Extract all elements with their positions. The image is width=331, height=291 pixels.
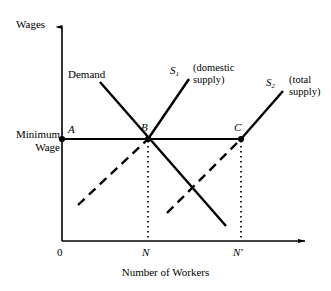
x-tick-label-n: N (142, 246, 149, 259)
total-supply-curve-label: S2 (266, 76, 275, 89)
origin-label: 0 (57, 246, 63, 259)
domestic-supply-curve-label: S1 (170, 64, 179, 77)
domestic-supply-curve-dashed (78, 139, 148, 205)
total-supply-note-line2: supply) (289, 86, 321, 97)
point-c-label: C (234, 121, 241, 134)
minimum-wage-label: MinimumWage (0, 128, 60, 153)
total-supply-note: (totalsupply) (289, 74, 321, 98)
total-supply-symbol: S (266, 76, 272, 88)
point-a-label: A (68, 123, 75, 136)
domestic-supply-note-line2: supply) (193, 74, 225, 85)
demand-curve-label: Demand (68, 68, 105, 81)
x-axis-label: Number of Workers (0, 266, 331, 279)
domestic-supply-note: (domesticsupply) (193, 62, 234, 86)
domestic-supply-curve (148, 79, 189, 139)
total-supply-curve (241, 91, 283, 139)
minimum-wage-label-line2: Wage (35, 141, 60, 153)
point-b-label: B (141, 121, 148, 134)
minimum-wage-supply-demand-diagram: Wages Number of Workers 0 N N′ MinimumWa… (0, 0, 331, 291)
total-supply-subscript: 2 (272, 82, 276, 90)
demand-curve (100, 82, 226, 226)
y-axis-label: Wages (16, 18, 45, 31)
minimum-wage-label-line1: Minimum (16, 128, 60, 140)
x-tick-label-n-prime: N′ (233, 246, 243, 259)
domestic-supply-note-line1: (domestic (193, 62, 234, 73)
domestic-supply-symbol: S (170, 64, 176, 76)
domestic-supply-subscript: 1 (176, 70, 180, 78)
point-c (238, 136, 244, 142)
point-b (145, 136, 151, 142)
total-supply-note-line1: (total (289, 74, 311, 85)
